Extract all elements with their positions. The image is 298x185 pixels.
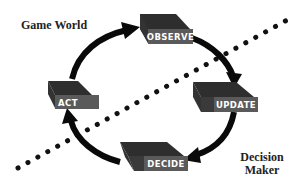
arrowhead-act — [62, 108, 78, 124]
decision-maker-line2: Maker — [234, 164, 290, 177]
node-observe: OBSERVE — [140, 14, 194, 44]
node-update-label: UPDATE — [216, 100, 256, 110]
arrow-decide-to-act — [71, 121, 120, 162]
node-decide: DECIDE — [120, 142, 188, 171]
node-decide-label: DECIDE — [147, 159, 185, 169]
node-act-label: ACT — [58, 98, 78, 108]
cycle-diagram: OBSERVE ACT UPDATE DECIDE Game World De — [0, 0, 298, 185]
node-observe-label: OBSERVE — [147, 32, 194, 42]
arrow-act-to-observe — [72, 30, 127, 79]
node-update: UPDATE — [193, 82, 258, 112]
decision-maker-label: Decision Maker — [234, 151, 290, 177]
node-act: ACT — [48, 81, 99, 109]
arrowhead-observe — [121, 22, 140, 39]
game-world-label: Game World — [21, 19, 87, 32]
arrow-update-to-decide — [196, 112, 234, 155]
